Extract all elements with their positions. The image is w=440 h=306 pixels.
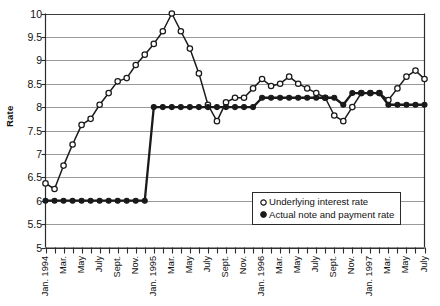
open-circle-marker bbox=[268, 83, 273, 88]
filled-circle-marker bbox=[142, 198, 147, 203]
open-circle-marker bbox=[52, 186, 57, 191]
y-tick-label: 5.5 bbox=[16, 219, 42, 230]
open-circle-marker bbox=[232, 95, 237, 100]
filled-circle-marker bbox=[314, 95, 319, 100]
plot-area bbox=[0, 0, 440, 306]
filled-circle-marker bbox=[233, 105, 238, 110]
open-circle-marker bbox=[413, 68, 418, 73]
filled-circle-marker bbox=[323, 95, 328, 100]
filled-circle-marker bbox=[368, 91, 373, 96]
filled-circle-marker bbox=[97, 198, 102, 203]
filled-circle-marker bbox=[205, 105, 210, 110]
open-circle-marker bbox=[422, 76, 427, 81]
filled-circle-marker bbox=[278, 95, 283, 100]
filled-circle-marker bbox=[332, 95, 337, 100]
open-circle-marker bbox=[160, 29, 165, 34]
series-line bbox=[46, 14, 425, 190]
open-circle-marker bbox=[70, 142, 75, 147]
legend-item: Actual note and payment rate bbox=[258, 209, 394, 222]
filled-circle-marker bbox=[115, 198, 120, 203]
open-circle-marker bbox=[341, 118, 346, 123]
y-tick-label: 5 bbox=[16, 242, 42, 253]
filled-circle-marker bbox=[187, 105, 192, 110]
open-circle-marker bbox=[277, 81, 282, 86]
filled-circle-marker bbox=[341, 102, 346, 107]
filled-circle-marker bbox=[196, 105, 201, 110]
open-circle-marker bbox=[151, 41, 156, 46]
open-circle-marker bbox=[88, 116, 93, 121]
filled-circle-marker bbox=[305, 95, 310, 100]
filled-circle-marker bbox=[287, 95, 292, 100]
chart-container: Rate 109.598.587.576.565.55 Jan. 1994Mar… bbox=[0, 0, 440, 306]
filled-circle-marker bbox=[296, 95, 301, 100]
y-axis-tick-labels: 109.598.587.576.565.55 bbox=[14, 0, 42, 306]
open-circle-marker bbox=[169, 11, 174, 16]
open-circle-marker bbox=[43, 181, 48, 186]
open-circle-marker bbox=[332, 113, 337, 118]
y-tick-label: 9.5 bbox=[16, 32, 42, 43]
open-circle-marker bbox=[350, 104, 355, 109]
open-circle-marker bbox=[142, 52, 147, 57]
legend-item: Underlying interest rate bbox=[258, 196, 394, 209]
filled-circle-marker bbox=[79, 198, 84, 203]
open-circle-icon bbox=[258, 198, 269, 207]
filled-circle-marker bbox=[52, 198, 57, 203]
filled-circle-marker bbox=[160, 105, 165, 110]
filled-circle-icon bbox=[258, 210, 269, 219]
y-tick-label: 6.5 bbox=[16, 172, 42, 183]
open-circle-marker bbox=[61, 163, 66, 168]
open-circle-marker bbox=[106, 90, 111, 95]
open-circle-marker bbox=[178, 29, 183, 34]
filled-circle-marker bbox=[169, 105, 174, 110]
open-circle-marker bbox=[79, 122, 84, 127]
filled-circle-marker bbox=[70, 198, 75, 203]
filled-circle-marker bbox=[151, 105, 156, 110]
filled-circle-marker bbox=[43, 198, 48, 203]
filled-circle-marker bbox=[395, 102, 400, 107]
filled-circle-marker bbox=[413, 102, 418, 107]
filled-circle-marker bbox=[350, 91, 355, 96]
chart-legend: Underlying interest rateActual note and … bbox=[252, 192, 401, 225]
open-circle-marker bbox=[286, 74, 291, 79]
filled-circle-marker bbox=[242, 105, 247, 110]
filled-circle-marker bbox=[251, 105, 256, 110]
filled-circle-marker bbox=[422, 102, 427, 107]
open-circle-marker bbox=[395, 86, 400, 91]
open-circle-marker bbox=[133, 62, 138, 67]
open-circle-marker bbox=[115, 79, 120, 84]
open-circle-marker bbox=[124, 75, 129, 80]
y-tick-label: 8 bbox=[16, 102, 42, 113]
y-tick-label: 6 bbox=[16, 195, 42, 206]
filled-circle-marker bbox=[61, 198, 66, 203]
filled-circle-marker bbox=[260, 95, 265, 100]
filled-circle-marker bbox=[269, 95, 274, 100]
open-circle-marker bbox=[196, 71, 201, 76]
legend-label: Actual note and payment rate bbox=[269, 209, 394, 222]
y-tick-label: 7.5 bbox=[16, 125, 42, 136]
open-circle-marker bbox=[187, 46, 192, 51]
filled-circle-marker bbox=[359, 91, 364, 96]
filled-circle-marker bbox=[377, 91, 382, 96]
y-tick-label: 9 bbox=[16, 55, 42, 66]
y-tick-label: 7 bbox=[16, 149, 42, 160]
filled-circle-marker bbox=[223, 105, 228, 110]
filled-circle-marker bbox=[124, 198, 129, 203]
filled-circle-marker bbox=[214, 105, 219, 110]
open-circle-marker bbox=[404, 74, 409, 79]
open-circle-marker bbox=[250, 86, 255, 91]
filled-circle-marker bbox=[88, 198, 93, 203]
filled-circle-marker bbox=[386, 102, 391, 107]
open-circle-marker bbox=[304, 86, 309, 91]
legend-label: Underlying interest rate bbox=[269, 196, 368, 209]
open-circle-marker bbox=[295, 81, 300, 86]
filled-circle-marker bbox=[133, 198, 138, 203]
open-circle-marker bbox=[214, 118, 219, 123]
filled-circle-marker bbox=[178, 105, 183, 110]
open-circle-marker bbox=[241, 95, 246, 100]
filled-circle-marker bbox=[106, 198, 111, 203]
filled-circle-marker bbox=[404, 102, 409, 107]
y-tick-label: 8.5 bbox=[16, 78, 42, 89]
open-circle-marker bbox=[97, 102, 102, 107]
open-circle-marker bbox=[259, 76, 264, 81]
y-tick-label: 10 bbox=[16, 8, 42, 19]
